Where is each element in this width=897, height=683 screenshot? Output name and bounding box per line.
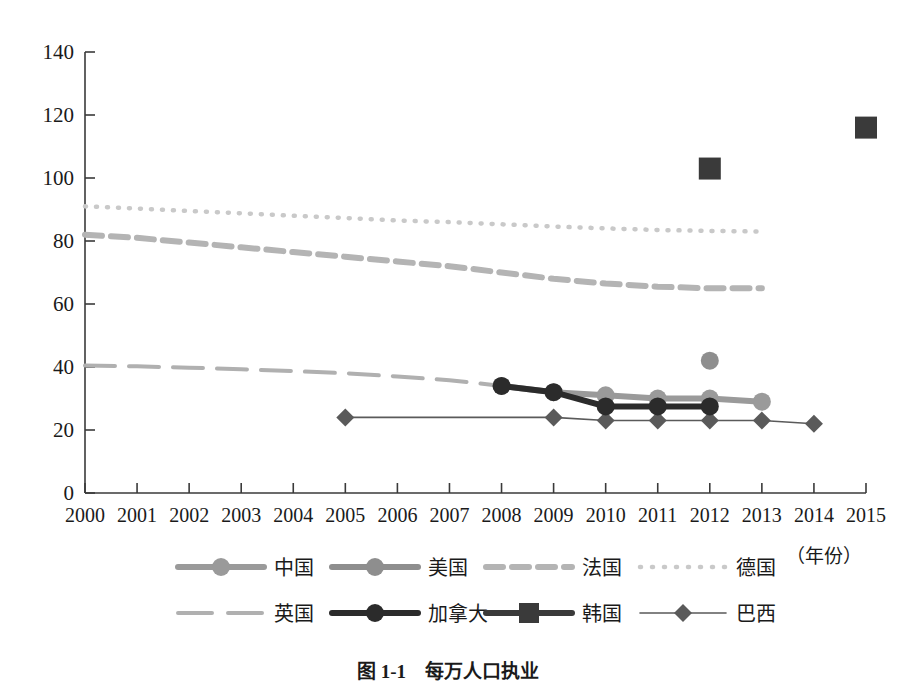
x-tick-label-2000: 2000 <box>65 504 105 526</box>
series-英国 <box>85 365 502 385</box>
x-axis-ticks <box>85 483 866 493</box>
y-tick-label-20: 20 <box>53 418 74 442</box>
figure-caption: 图 1-1 每万人口执业 <box>357 660 539 682</box>
marker-韩国-2015 <box>855 117 877 139</box>
legend-label-korea: 韩国 <box>582 603 622 625</box>
series-美国 <box>701 352 719 370</box>
marker-加拿大-2008 <box>493 377 511 395</box>
legend-marker-usa <box>366 558 384 576</box>
x-tick-label-2002: 2002 <box>169 504 209 526</box>
legend-item-usa[interactable]: 美国 <box>332 557 468 579</box>
legend-marker-china <box>212 558 230 576</box>
marker-加拿大-2010 <box>597 397 615 415</box>
legend-label-canada: 加拿大 <box>428 602 488 625</box>
legend-marker-canada <box>366 604 384 622</box>
x-tick-label-2013: 2013 <box>742 504 782 526</box>
x-tick-label-2003: 2003 <box>221 504 261 526</box>
series-line-德国 <box>85 206 762 231</box>
series-line-巴西 <box>345 417 814 423</box>
marker-加拿大-2012 <box>701 397 719 415</box>
legend-label-brazil: 巴西 <box>736 603 776 625</box>
y-tick-label-120: 120 <box>43 103 75 127</box>
x-tick-label-2006: 2006 <box>377 504 417 526</box>
legend-label-usa: 美国 <box>428 557 468 579</box>
x-tick-label-2009: 2009 <box>534 504 574 526</box>
data-series-layer <box>85 117 877 433</box>
legend-item-korea[interactable]: 韩国 <box>486 603 622 625</box>
legend-item-france[interactable]: 法国 <box>486 557 622 579</box>
marker-加拿大-2011 <box>649 397 667 415</box>
chart-legend: 中国美国法国德国英国加拿大韩国巴西 <box>178 557 776 625</box>
x-tick-label-2008: 2008 <box>482 504 522 526</box>
y-tick-label-80: 80 <box>53 229 74 253</box>
x-tick-label-2004: 2004 <box>273 504 313 526</box>
marker-巴西-2005 <box>336 408 354 426</box>
axis-lines <box>85 52 866 493</box>
x-tick-label-2007: 2007 <box>429 504 469 526</box>
line-chart: 020406080100120140 200020012002200320042… <box>0 0 897 683</box>
series-line-法国 <box>85 235 762 289</box>
legend-marker-brazil <box>674 604 692 622</box>
x-tick-label-2011: 2011 <box>638 504 677 526</box>
chart-figure: 020406080100120140 200020012002200320042… <box>0 0 897 683</box>
series-德国 <box>85 206 762 231</box>
x-tick-label-2001: 2001 <box>117 504 157 526</box>
marker-巴西-2014 <box>805 415 823 433</box>
y-axis-tick-labels: 020406080100120140 <box>43 40 75 505</box>
x-tick-label-2014: 2014 <box>794 504 834 526</box>
marker-加拿大-2009 <box>545 383 563 401</box>
series-韩国 <box>699 117 877 180</box>
marker-中国-2013 <box>753 393 771 411</box>
x-axis-unit-label: （年份） <box>786 546 862 567</box>
marker-巴西-2009 <box>545 408 563 426</box>
series-法国 <box>85 235 762 289</box>
legend-item-germany[interactable]: 德国 <box>640 557 776 579</box>
legend-label-china: 中国 <box>274 557 314 579</box>
legend-item-uk[interactable]: 英国 <box>178 603 314 625</box>
marker-韩国-2012 <box>699 158 721 180</box>
x-tick-label-2012: 2012 <box>690 504 730 526</box>
marker-美国-2012 <box>701 352 719 370</box>
x-tick-label-2010: 2010 <box>586 504 626 526</box>
y-axis-ticks <box>85 52 95 493</box>
series-巴西 <box>336 408 823 432</box>
marker-巴西-2013 <box>753 412 771 430</box>
legend-item-china[interactable]: 中国 <box>178 557 314 579</box>
y-tick-label-100: 100 <box>43 166 75 190</box>
legend-label-germany: 德国 <box>736 557 776 579</box>
x-tick-label-2005: 2005 <box>325 504 365 526</box>
legend-item-canada[interactable]: 加拿大 <box>332 602 488 625</box>
legend-marker-korea <box>519 603 539 623</box>
x-axis-tick-labels: 2000200120022003200420052006200720082009… <box>65 504 886 526</box>
y-tick-label-40: 40 <box>53 355 74 379</box>
y-tick-label-140: 140 <box>43 40 75 64</box>
x-tick-label-2015: 2015 <box>846 504 886 526</box>
legend-item-brazil[interactable]: 巴西 <box>640 603 776 625</box>
series-line-英国 <box>85 365 502 385</box>
legend-label-uk: 英国 <box>274 603 314 625</box>
y-tick-label-60: 60 <box>53 292 74 316</box>
legend-label-france: 法国 <box>582 557 622 579</box>
y-tick-label-0: 0 <box>64 481 75 505</box>
